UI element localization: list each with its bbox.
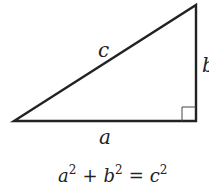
right-angle-marker xyxy=(182,107,196,121)
eq-b: b xyxy=(103,165,115,185)
label-vertical-leg: b xyxy=(202,53,209,77)
eq-a-exp: 2 xyxy=(69,163,77,177)
eq-plus: + xyxy=(82,165,97,185)
label-horizontal-leg: a xyxy=(99,125,111,149)
eq-b-exp: 2 xyxy=(115,163,123,177)
svg-text:a2+b2=c2: a2+b2=c2 xyxy=(58,163,167,185)
triangle-diagram: c b a a2+b2=c2 xyxy=(0,0,209,185)
eq-equals: = xyxy=(129,165,144,185)
eq-a: a xyxy=(58,165,69,185)
pythagorean-equation: a2+b2=c2 xyxy=(58,163,167,185)
right-triangle xyxy=(14,5,196,121)
eq-c-exp: 2 xyxy=(160,163,168,177)
label-hypotenuse: c xyxy=(98,38,109,62)
eq-c: c xyxy=(150,165,160,185)
